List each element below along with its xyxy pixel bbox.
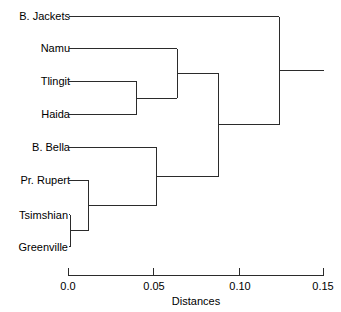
leaf-label-tsimshian: Tsimshian <box>19 209 68 221</box>
leaf-label-b-jackets: B. Jackets <box>19 10 70 22</box>
dendrogram-link <box>69 82 137 115</box>
dendrogram-link <box>69 148 157 206</box>
axis-tick-label-1: 0.05 <box>143 280 164 292</box>
axis-title: Distances <box>172 295 221 307</box>
x-axis: 0.0 0.05 0.10 0.15 Distances <box>60 268 333 307</box>
dendrogram-link <box>69 49 178 99</box>
dendrogram-canvas: B. Jackets Namu Tlingit Haida B. Bella P… <box>0 0 341 312</box>
axis-tick-label-3: 0.15 <box>312 280 333 292</box>
dendrogram-link <box>69 17 280 125</box>
dendrogram-tree <box>69 17 324 247</box>
axis-tick-label-0: 0.0 <box>60 280 75 292</box>
dendrogram-link <box>69 181 89 231</box>
axis-tick-label-2: 0.10 <box>229 280 250 292</box>
dendrogram-link <box>157 73 218 176</box>
leaf-label-greenville: Greenville <box>18 241 68 253</box>
leaf-label-pr-rupert: Pr. Rupert <box>20 174 70 186</box>
dendrogram-link <box>69 215 71 247</box>
leaf-label-b-bella: B. Bella <box>32 141 71 153</box>
leaf-label-haida: Haida <box>41 108 71 120</box>
dendrogram-figure: B. Jackets Namu Tlingit Haida B. Bella P… <box>0 0 341 312</box>
leaf-label-tlingit: Tlingit <box>41 75 70 87</box>
leaf-label-namu: Namu <box>41 42 70 54</box>
